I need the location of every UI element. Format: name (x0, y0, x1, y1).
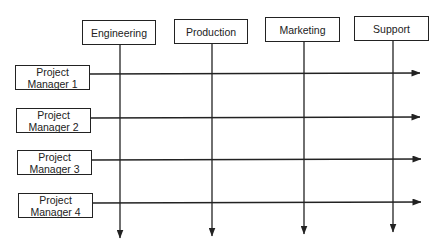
matrix-org-diagram: Engineering Production Marketing Support… (0, 0, 440, 248)
department-box-marketing: Marketing (265, 17, 340, 42)
horizontal-arrow (93, 202, 421, 203)
horizontal-arrow (92, 159, 421, 160)
department-box-engineering: Engineering (82, 20, 156, 45)
project-manager-box-3: Project Manager 3 (17, 150, 92, 175)
pm-label-line2: Manager 2 (28, 121, 78, 133)
pm-label-line2: Manager 4 (30, 206, 80, 218)
pm-label-line1: Project (38, 151, 71, 163)
pm-label-line1: Project (39, 194, 72, 206)
pm-label-line1: Project (37, 109, 70, 121)
department-box-production: Production (174, 19, 248, 44)
department-box-support: Support (354, 16, 429, 41)
project-manager-box-1: Project Manager 1 (15, 65, 90, 90)
project-manager-box-4: Project Manager 4 (18, 193, 93, 218)
horizontal-arrow (91, 117, 420, 118)
horizontal-arrow (90, 73, 420, 74)
department-label: Support (373, 23, 410, 35)
pm-label-line2: Manager 3 (29, 163, 79, 175)
department-label: Marketing (279, 24, 325, 36)
department-label: Production (186, 26, 236, 38)
department-authority-lines (120, 41, 393, 238)
department-label: Engineering (91, 27, 147, 39)
project-manager-box-2: Project Manager 2 (16, 108, 91, 133)
project-authority-lines (90, 73, 421, 203)
pm-label-line1: Project (36, 66, 69, 78)
pm-label-line2: Manager 1 (27, 78, 77, 90)
